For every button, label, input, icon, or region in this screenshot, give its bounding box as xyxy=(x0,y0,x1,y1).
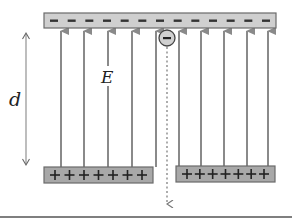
minus-icon xyxy=(262,20,270,22)
distance-label: d xyxy=(9,88,21,110)
electron xyxy=(159,30,175,46)
minus-icon xyxy=(138,20,146,22)
electric-field-lines xyxy=(61,31,268,167)
bottom-plate-right xyxy=(176,166,275,182)
parallel-plate-diagram: d E xyxy=(0,0,292,218)
field-label: E xyxy=(100,67,114,87)
minus-icon xyxy=(121,20,129,22)
distance-arrow xyxy=(23,33,30,165)
electron-minus-icon xyxy=(163,37,171,39)
minus-icon xyxy=(68,20,76,22)
minus-icon xyxy=(50,20,58,22)
minus-icon xyxy=(209,20,217,22)
bottom-plates-positive xyxy=(44,166,275,183)
top-plate-negative xyxy=(44,13,276,28)
minus-icon xyxy=(174,20,182,22)
minus-icon xyxy=(103,20,111,22)
minus-icon xyxy=(156,20,164,22)
minus-icon xyxy=(191,20,199,22)
minus-icon xyxy=(227,20,235,22)
minus-icon xyxy=(85,20,93,22)
minus-icon xyxy=(244,20,252,22)
bottom-plate-left xyxy=(44,167,153,183)
